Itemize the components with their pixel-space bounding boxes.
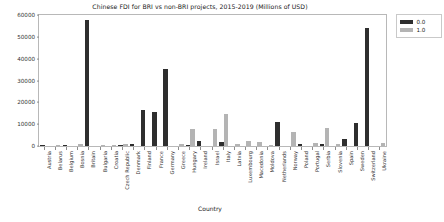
x-axis-tick-mark bbox=[245, 147, 246, 150]
x-axis-tick-label: Macedonia bbox=[258, 151, 264, 179]
bar-group bbox=[365, 15, 374, 146]
bar-group bbox=[141, 15, 150, 146]
x-axis-tick-mark bbox=[133, 147, 134, 150]
x-axis-tick-mark bbox=[368, 147, 369, 150]
bar-group bbox=[51, 15, 60, 146]
bar-0-0[interactable] bbox=[354, 123, 358, 146]
x-axis-tick-label: Spain bbox=[348, 151, 354, 165]
x-axis-tick-mark bbox=[189, 147, 190, 150]
bar-group bbox=[163, 15, 172, 146]
bar-1-0[interactable] bbox=[78, 144, 82, 146]
bar-1-0[interactable] bbox=[235, 144, 239, 146]
bar-1-0[interactable] bbox=[269, 145, 273, 146]
x-axis-tick-mark bbox=[290, 147, 291, 150]
bar-1-0[interactable] bbox=[112, 145, 116, 146]
bar-group bbox=[85, 15, 94, 146]
x-axis-tick-mark bbox=[323, 147, 324, 150]
bar-group bbox=[253, 15, 262, 146]
bar-1-0[interactable] bbox=[291, 132, 295, 146]
bar-group bbox=[96, 15, 105, 146]
bar-group bbox=[197, 15, 206, 146]
plot-area: 0100002000030000400005000060000 bbox=[39, 15, 386, 146]
legend-item[interactable]: 1.0 bbox=[400, 26, 438, 34]
x-axis-tick-mark bbox=[66, 147, 67, 150]
x-axis-tick-mark bbox=[335, 147, 336, 150]
x-axis-tick-mark bbox=[77, 147, 78, 150]
bar-0-0[interactable] bbox=[63, 145, 67, 146]
x-axis-tick-mark bbox=[212, 147, 213, 150]
bar-1-0[interactable] bbox=[123, 144, 127, 146]
legend-swatch-icon bbox=[400, 28, 413, 31]
bar-group bbox=[152, 15, 161, 146]
x-axis-tick-label: Hungary bbox=[191, 151, 197, 173]
x-axis-tick-label: Croatia bbox=[113, 151, 119, 169]
bar-1-0[interactable] bbox=[190, 129, 194, 146]
x-axis-tick-mark bbox=[223, 147, 224, 150]
bar-0-0[interactable] bbox=[85, 20, 89, 146]
chart-container: Chinese FDI for BRI vs non-BRI projects,… bbox=[0, 0, 444, 222]
x-axis-tick-mark bbox=[88, 147, 89, 150]
bar-1-0[interactable] bbox=[381, 143, 385, 146]
x-axis-tick-label: Austria bbox=[46, 151, 52, 169]
bar-1-0[interactable] bbox=[257, 142, 261, 146]
x-axis-tick-label: Moldova bbox=[269, 151, 275, 172]
x-axis-tick-label: Greece bbox=[180, 151, 186, 169]
legend-label: 0.0 bbox=[417, 18, 426, 26]
x-axis-tick-label: Ukraine bbox=[381, 151, 387, 171]
bar-0-0[interactable] bbox=[152, 112, 156, 146]
bar-group bbox=[107, 15, 116, 146]
bar-group bbox=[241, 15, 250, 146]
bar-1-0[interactable] bbox=[336, 144, 340, 146]
x-axis-tick-label: Luxembourg bbox=[247, 151, 253, 183]
bar-1-0[interactable] bbox=[179, 144, 183, 146]
bar-0-0[interactable] bbox=[365, 28, 369, 146]
x-axis-tick-mark bbox=[357, 147, 358, 150]
bar-0-0[interactable] bbox=[163, 69, 167, 147]
bar-group bbox=[208, 15, 217, 146]
bar-0-0[interactable] bbox=[40, 145, 44, 146]
bar-1-0[interactable] bbox=[224, 114, 228, 146]
bar-1-0[interactable] bbox=[56, 145, 60, 146]
x-axis-tick-mark bbox=[122, 147, 123, 150]
x-axis-tick-label: Britain bbox=[90, 151, 96, 168]
y-axis-tick-mark bbox=[37, 58, 40, 59]
bar-group bbox=[309, 15, 318, 146]
x-axis-tick-mark bbox=[44, 147, 45, 150]
legend-item[interactable]: 0.0 bbox=[400, 18, 438, 26]
x-axis-tick-mark bbox=[167, 147, 168, 150]
bar-0-0[interactable] bbox=[130, 144, 134, 146]
x-axis-tick-mark bbox=[144, 147, 145, 150]
bar-group bbox=[219, 15, 228, 146]
bar-0-0[interactable] bbox=[298, 144, 302, 146]
x-axis-tick-label: Portugal bbox=[314, 151, 320, 172]
x-axis-tick-mark bbox=[100, 147, 101, 150]
x-axis-tick-label: Belgium bbox=[68, 151, 74, 172]
bar-1-0[interactable] bbox=[325, 128, 329, 146]
bar-1-0[interactable] bbox=[313, 143, 317, 146]
x-axis-tick-label: Belarus bbox=[57, 151, 63, 170]
bar-group bbox=[286, 15, 295, 146]
x-axis-tick-label: France bbox=[158, 151, 164, 168]
x-axis-tick-mark bbox=[234, 147, 235, 150]
x-axis-tick-label: Finland bbox=[146, 151, 152, 169]
bar-group bbox=[129, 15, 138, 146]
bar-1-0[interactable] bbox=[246, 141, 250, 146]
x-axis-tick-label: Poland bbox=[303, 151, 309, 168]
bar-0-0[interactable] bbox=[141, 110, 145, 146]
bar-0-0[interactable] bbox=[342, 139, 346, 146]
x-axis-tick-mark bbox=[55, 147, 56, 150]
y-axis-tick-mark bbox=[37, 80, 40, 81]
x-axis-tick-label: Slovenia bbox=[337, 151, 343, 173]
x-axis-tick-label: Germany bbox=[169, 151, 175, 174]
x-axis-tick-label: Serbia bbox=[325, 151, 331, 167]
bar-0-0[interactable] bbox=[275, 122, 279, 146]
x-axis-tick-mark bbox=[267, 147, 268, 150]
bar-1-0[interactable] bbox=[101, 145, 105, 146]
x-axis-tick-mark bbox=[279, 147, 280, 150]
bar-group bbox=[331, 15, 340, 146]
legend-swatch-icon bbox=[400, 20, 413, 23]
bar-1-0[interactable] bbox=[213, 129, 217, 146]
x-axis-tick-label: Norway bbox=[292, 151, 298, 170]
chart-title: Chinese FDI for BRI vs non-BRI projects,… bbox=[0, 3, 400, 10]
bar-0-0[interactable] bbox=[197, 141, 201, 146]
